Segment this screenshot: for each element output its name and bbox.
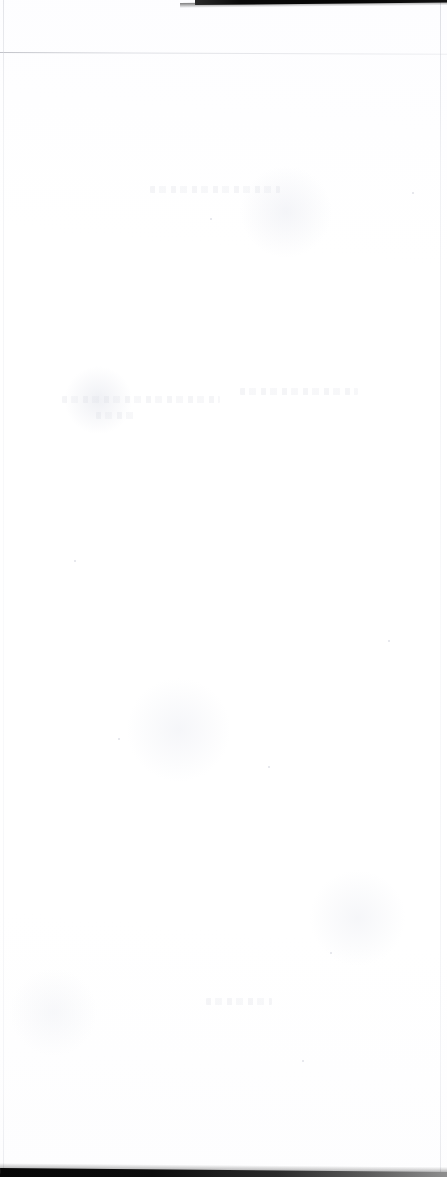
paper-sheet: [0, 0, 447, 1177]
scanned-page: [0, 0, 447, 1177]
sheet-edge-right-rule: [440, 0, 441, 1177]
sheet-edge-left-rule: [3, 0, 4, 1177]
